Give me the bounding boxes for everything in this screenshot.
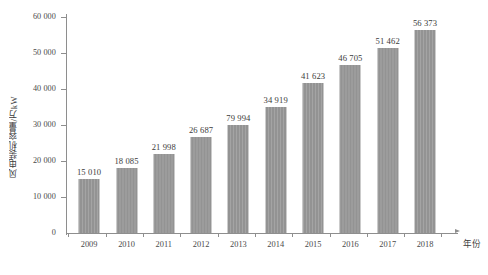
x-axis-tick	[441, 233, 442, 237]
y-axis-tick-label: 10 000	[0, 193, 56, 201]
x-axis-tick	[143, 233, 144, 237]
x-axis-tick-label: 2015	[305, 240, 322, 249]
bar-value-label: 79 994	[226, 114, 250, 123]
bar	[377, 48, 398, 233]
x-axis-tick	[68, 233, 69, 237]
x-axis-tick-label: 2014	[267, 240, 284, 249]
x-axis-tick	[292, 233, 293, 237]
x-axis-tick	[218, 233, 219, 237]
bar	[265, 107, 286, 233]
bar-value-label: 21 998	[152, 143, 176, 152]
x-axis-tick	[255, 233, 256, 237]
bar-value-label: 56 373	[413, 19, 437, 28]
bar	[303, 83, 324, 233]
bar-value-label: 34 919	[264, 96, 288, 105]
x-axis-tick	[404, 233, 405, 237]
x-axis-tick	[367, 233, 368, 237]
plot-area	[66, 17, 456, 233]
x-axis-tick-label: 2016	[342, 240, 359, 249]
x-axis-tick-label: 2009	[81, 240, 98, 249]
y-axis-tick-label: 50 000	[0, 49, 56, 57]
bar-value-label: 51 462	[376, 37, 400, 46]
x-axis-tick-label: 2012	[193, 240, 210, 249]
bar-value-label: 26 687	[189, 126, 213, 135]
y-axis-tick-label: 40 000	[0, 85, 56, 93]
bar	[153, 154, 174, 233]
bar	[116, 168, 137, 233]
bar	[191, 137, 212, 233]
bar-value-label: 41 623	[301, 72, 325, 81]
x-axis-tick	[180, 233, 181, 237]
bar	[415, 30, 436, 233]
x-axis-tick	[330, 233, 331, 237]
x-axis-tick-label: 2011	[156, 240, 172, 249]
bar	[79, 179, 100, 233]
bar	[228, 125, 249, 233]
x-axis-tick-label: 2013	[230, 240, 247, 249]
y-axis-tick-label: 0	[0, 229, 56, 237]
x-axis-tick	[106, 233, 107, 237]
bar-value-label: 46 705	[338, 54, 362, 63]
x-axis-tick-label: 2010	[118, 240, 135, 249]
bar	[340, 65, 361, 233]
x-axis-line	[66, 233, 458, 234]
y-axis-tick-label: 20 000	[0, 157, 56, 165]
bar-value-label: 15 010	[77, 168, 101, 177]
bar-chart: 风电装机容量/万kW 年份 010 00020 00030 00040 0005…	[0, 0, 488, 275]
y-axis-tick-label: 60 000	[0, 13, 56, 21]
x-axis-title: 年份	[463, 240, 481, 249]
bar-value-label: 18 085	[114, 157, 138, 166]
x-axis-tick-label: 2017	[379, 240, 396, 249]
x-axis-tick-label: 2018	[417, 240, 434, 249]
y-axis-title: 风电装机容量/万kW	[9, 96, 22, 178]
y-axis-tick-label: 30 000	[0, 121, 56, 129]
